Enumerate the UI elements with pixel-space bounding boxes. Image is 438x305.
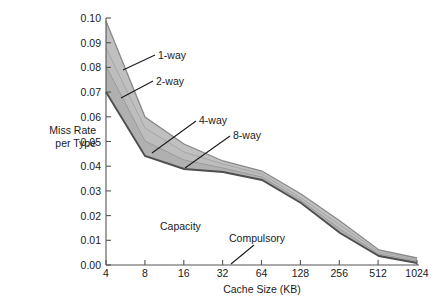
x-axis-title: Cache Size (KB) (223, 283, 301, 295)
y-tick-label: 0.01 (81, 234, 102, 246)
annotation-label-capacity: Capacity (160, 220, 202, 232)
x-tick-label: 1024 (405, 267, 429, 279)
y-tick-label: 0.08 (81, 61, 102, 73)
annotation-label-1way: 1-way (158, 49, 187, 61)
y-tick-label: 0.04 (81, 160, 102, 172)
x-tick-labels: 4 8 16 32 64 128 256 512 1024 (103, 267, 429, 279)
y-tick-label: 0.10 (81, 12, 102, 24)
y-tick-label: 0.02 (81, 210, 102, 222)
annotation-label-4way: 4-way (199, 114, 228, 126)
annotation-label-compulsory: Compulsory (229, 232, 286, 244)
y-axis-title-line2: per Type (55, 137, 96, 149)
y-axis-title-line1: Miss Rate (49, 124, 96, 136)
annotation-1way: 1-way (123, 49, 187, 70)
leader-line-1way (123, 55, 155, 70)
x-tick-label: 16 (178, 267, 190, 279)
annotation-label-8way: 8-way (233, 129, 262, 141)
y-tick-label: 0.03 (81, 185, 102, 197)
x-tick-label: 4 (103, 267, 109, 279)
x-tick-marks (106, 260, 417, 265)
x-tick-label: 128 (292, 267, 310, 279)
leader-line-compulsory (231, 245, 254, 264)
x-tick-label: 64 (256, 267, 268, 279)
y-tick-label: 0.09 (81, 37, 102, 49)
y-axis-title: Miss Rate per Type (49, 124, 96, 149)
annotation-label-2way: 2-way (156, 75, 185, 87)
annotation-compulsory: Compulsory (229, 232, 286, 264)
x-tick-label: 8 (142, 267, 148, 279)
associativity-band-group (106, 21, 417, 263)
y-tick-label: 0.06 (81, 111, 102, 123)
cache-miss-rate-chart: 0.10 0.09 0.08 0.07 0.06 0.05 0.04 0.03 … (0, 0, 438, 305)
x-tick-label: 512 (369, 267, 387, 279)
y-tick-label: 0.07 (81, 86, 102, 98)
x-tick-label: 32 (217, 267, 229, 279)
x-tick-label: 256 (331, 267, 349, 279)
y-tick-label: 0.00 (81, 259, 102, 271)
chart-canvas: 0.10 0.09 0.08 0.07 0.06 0.05 0.04 0.03 … (0, 0, 438, 305)
